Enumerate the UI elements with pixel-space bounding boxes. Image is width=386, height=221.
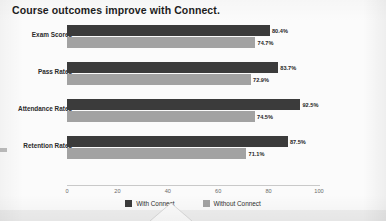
bar-pass-with-connect[interactable] (67, 62, 278, 73)
x-axis-line (67, 185, 320, 186)
bar-pass-without-connect[interactable] (67, 74, 251, 85)
bar-group-retention-rates: Retention Rates 87.5% 71.1% (0, 133, 386, 166)
category-label-retention-rates: Retention Rates (23, 142, 72, 149)
x-tick-80: 80 (265, 188, 271, 194)
plot-area: Exam Scores 80.4% 74.7% Pass Rates 83.7%… (0, 22, 386, 186)
x-tick-20: 20 (114, 188, 120, 194)
bar-track-pass-with: 83.7% (67, 62, 319, 73)
bar-track-attendance-without: 74.5% (67, 111, 319, 122)
page-edge-mark (0, 148, 7, 152)
legend-item-without-connect[interactable]: Without Connect (203, 200, 261, 207)
x-tick-40: 40 (165, 188, 171, 194)
bar-value-retention-with: 87.5% (290, 139, 306, 145)
x-tick-100: 100 (314, 188, 323, 194)
legend-label-without-connect: Without Connect (214, 200, 261, 207)
bar-value-attendance-without: 74.5% (257, 114, 273, 120)
bar-group-pass-rates: Pass Rates 83.7% 72.9% (0, 59, 386, 92)
bar-group-attendance-rates: Attendance Rates 92.5% 74.5% (0, 96, 386, 129)
x-tick-0: 0 (65, 188, 68, 194)
chart-title: Course outcomes improve with Connect. (12, 4, 220, 16)
bar-value-exam-without: 74.7% (258, 40, 274, 46)
bar-value-attendance-with: 92.5% (303, 102, 319, 108)
bar-track-attendance-with: 92.5% (67, 99, 319, 110)
bar-retention-without-connect[interactable] (67, 148, 246, 159)
bar-retention-with-connect[interactable] (67, 136, 288, 147)
bar-track-retention-with: 87.5% (67, 136, 319, 147)
bar-track-retention-without: 71.1% (67, 148, 319, 159)
category-label-exam-scores: Exam Scores (32, 31, 72, 38)
bar-exam-without-connect[interactable] (67, 37, 255, 48)
legend-item-with-connect[interactable]: With Connect (125, 200, 174, 207)
bar-exam-with-connect[interactable] (67, 25, 270, 36)
legend-swatch-icon-with-connect (125, 200, 132, 207)
bar-value-pass-without: 72.9% (253, 77, 269, 83)
bar-track-pass-without: 72.9% (67, 74, 319, 85)
bar-value-exam-with: 80.4% (272, 28, 288, 34)
legend-label-with-connect: With Connect (136, 200, 174, 207)
bar-attendance-with-connect[interactable] (67, 99, 300, 110)
bar-group-exam-scores: Exam Scores 80.4% 74.7% (0, 22, 386, 55)
bar-track-exam-without: 74.7% (67, 37, 319, 48)
legend-swatch-icon-without-connect (203, 200, 210, 207)
bar-value-pass-with: 83.7% (280, 65, 296, 71)
bar-attendance-without-connect[interactable] (67, 111, 255, 122)
x-tick-60: 60 (215, 188, 221, 194)
category-label-attendance-rates: Attendance Rates (18, 105, 72, 112)
bar-track-exam-with: 80.4% (67, 25, 319, 36)
chart-legend: With Connect Without Connect (0, 196, 386, 210)
bar-value-retention-without: 71.1% (249, 151, 265, 157)
page-bottom-edge (0, 210, 386, 221)
